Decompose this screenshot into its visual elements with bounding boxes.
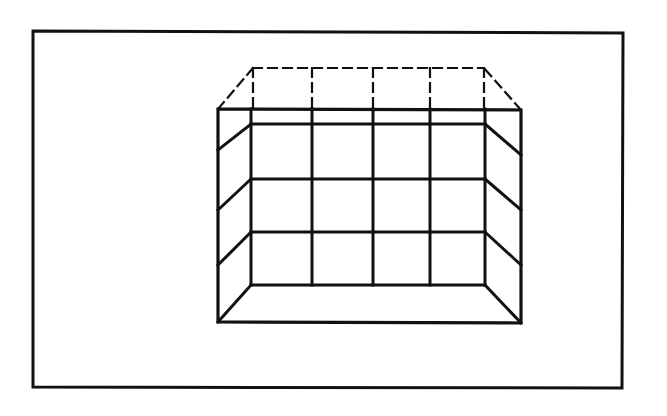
box-diagram xyxy=(0,0,667,416)
background xyxy=(0,0,667,416)
